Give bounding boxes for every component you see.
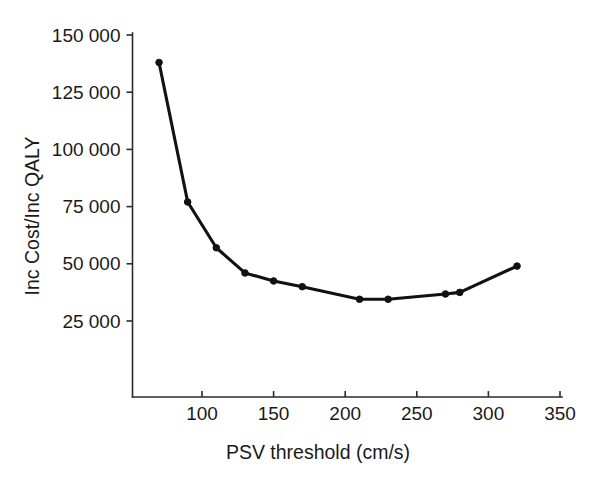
figure-canvas: 25 00050 00075 000100 000125 000150 000 … xyxy=(0,0,600,479)
data-point-marker xyxy=(270,278,277,285)
y-axis-tick-labels: 25 00050 00075 000100 000125 000150 000 xyxy=(52,25,121,332)
data-point-marker xyxy=(299,283,306,290)
y-axis-title: Inc Cost/Inc QALY xyxy=(21,137,43,296)
data-point-marker xyxy=(356,296,363,303)
data-series-line xyxy=(159,62,517,299)
y-tick-label: 150 000 xyxy=(52,25,121,46)
y-tick-label: 75 000 xyxy=(62,196,120,217)
data-series-markers xyxy=(156,59,521,302)
data-point-marker xyxy=(514,263,521,270)
x-tick-label: 250 xyxy=(401,403,433,424)
data-point-marker xyxy=(456,289,463,296)
y-tick-label: 50 000 xyxy=(62,253,120,274)
x-tick-label: 350 xyxy=(544,403,576,424)
y-axis-ticks xyxy=(127,35,133,321)
x-axis-title: PSV threshold (cm/s) xyxy=(226,441,410,463)
data-point-marker xyxy=(385,296,392,303)
y-tick-label: 25 000 xyxy=(62,311,120,332)
x-tick-label: 150 xyxy=(258,403,290,424)
data-point-marker xyxy=(242,270,249,277)
data-point-marker xyxy=(213,244,220,251)
y-tick-label: 100 000 xyxy=(52,139,121,160)
line-chart: 25 00050 00075 000100 000125 000150 000 … xyxy=(0,0,600,479)
x-tick-label: 300 xyxy=(473,403,505,424)
y-tick-label: 125 000 xyxy=(52,82,121,103)
x-tick-label: 200 xyxy=(329,403,361,424)
x-tick-label: 100 xyxy=(186,403,218,424)
x-axis-ticks xyxy=(202,391,560,397)
data-point-marker xyxy=(442,291,449,298)
x-axis-tick-labels: 100150200250300350 xyxy=(186,403,576,424)
data-point-marker xyxy=(156,59,163,66)
data-point-marker xyxy=(184,199,191,206)
